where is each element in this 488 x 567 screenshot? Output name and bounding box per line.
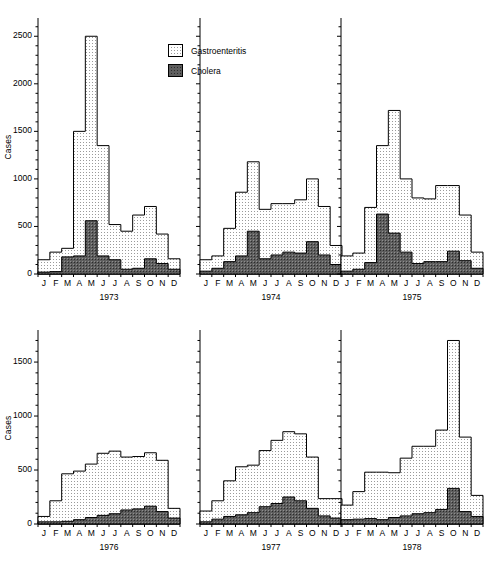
x-axis-month-labels: JFMAMJJASOND — [38, 278, 180, 288]
x-tick-label: M — [247, 278, 259, 288]
x-tick-label: A — [424, 278, 436, 288]
y-axis-title: Cases — [3, 127, 13, 167]
x-tick-label: J — [412, 278, 424, 288]
x-tick-label: J — [97, 278, 109, 288]
x-tick-label: J — [259, 278, 271, 288]
x-tick-label: A — [73, 528, 85, 538]
x-tick-label: J — [341, 528, 353, 538]
x-tick-label: N — [459, 528, 471, 538]
x-tick-label: M — [388, 278, 400, 288]
panel-year-label-1973: 1973 — [38, 292, 180, 302]
x-tick-label: J — [412, 528, 424, 538]
y-tick-label: 2000 — [4, 78, 32, 88]
panel-year-label-1975: 1975 — [341, 292, 483, 302]
series-gastroenteritis-1978 — [341, 340, 483, 524]
x-tick-label: J — [200, 528, 212, 538]
chart-row-top: 05001000150020002500CasesJFMAMJJASOND197… — [0, 0, 450, 310]
x-tick-label: M — [85, 278, 97, 288]
chart-row-bottom: 050010001500CasesJFMAMJJASOND1976 JFMAMJ… — [0, 318, 450, 567]
x-tick-label: S — [436, 528, 448, 538]
x-tick-label: F — [353, 528, 365, 538]
x-tick-label: O — [144, 278, 156, 288]
x-tick-label: M — [388, 528, 400, 538]
x-tick-label: A — [235, 528, 247, 538]
x-tick-label: M — [224, 278, 236, 288]
y-axis-title: Cases — [3, 408, 13, 448]
x-tick-label: A — [283, 528, 295, 538]
x-tick-label: J — [38, 278, 50, 288]
panel-plot-1976 — [4, 318, 192, 534]
x-tick-label: J — [400, 278, 412, 288]
x-tick-label: J — [38, 528, 50, 538]
series-gastroenteritis-1973 — [38, 36, 180, 274]
x-tick-label: F — [50, 278, 62, 288]
x-tick-label: J — [271, 528, 283, 538]
x-tick-label: A — [376, 278, 388, 288]
x-tick-label: J — [271, 278, 283, 288]
x-tick-label: A — [376, 528, 388, 538]
x-tick-label: J — [109, 278, 121, 288]
x-tick-label: M — [62, 278, 74, 288]
x-tick-label: A — [283, 278, 295, 288]
x-tick-label: J — [97, 528, 109, 538]
x-tick-label: J — [109, 528, 121, 538]
x-tick-label: A — [121, 278, 133, 288]
y-tick-label: 1500 — [4, 356, 32, 366]
panel-plot-1975 — [307, 0, 488, 284]
x-tick-label: F — [212, 278, 224, 288]
x-tick-label: O — [144, 528, 156, 538]
y-tick-label: 2500 — [4, 30, 32, 40]
panel-1978: JFMAMJJASOND1978 — [307, 318, 488, 564]
series-gastroenteritis-1975 — [341, 110, 483, 274]
x-tick-label: J — [259, 528, 271, 538]
x-tick-label: F — [50, 528, 62, 538]
x-tick-label: A — [121, 528, 133, 538]
x-tick-label: M — [85, 528, 97, 538]
x-tick-label: S — [133, 528, 145, 538]
x-tick-label: J — [341, 278, 353, 288]
y-tick-label: 0 — [4, 268, 32, 278]
x-tick-label: F — [212, 528, 224, 538]
x-tick-label: J — [200, 278, 212, 288]
x-tick-label: S — [295, 278, 307, 288]
y-tick-label: 500 — [4, 464, 32, 474]
x-tick-label: A — [424, 528, 436, 538]
x-tick-label: A — [235, 278, 247, 288]
panel-plot-1978 — [307, 318, 488, 534]
x-axis-month-labels: JFMAMJJASOND — [341, 278, 483, 288]
x-tick-label: F — [353, 278, 365, 288]
panel-year-label-1978: 1978 — [341, 542, 483, 552]
x-tick-label: A — [73, 278, 85, 288]
panel-1975: JFMAMJJASOND1975 — [307, 0, 488, 314]
x-tick-label: N — [459, 278, 471, 288]
x-axis-month-labels: JFMAMJJASOND — [341, 528, 483, 538]
x-tick-label: M — [247, 528, 259, 538]
x-tick-label: M — [365, 278, 377, 288]
x-tick-label: S — [133, 278, 145, 288]
x-tick-label: M — [224, 528, 236, 538]
panel-1976: 050010001500CasesJFMAMJJASOND1976 — [4, 318, 186, 564]
panel-1973: 05001000150020002500CasesJFMAMJJASOND197… — [4, 0, 186, 314]
x-tick-label: O — [447, 528, 459, 538]
y-tick-label: 0 — [4, 518, 32, 528]
x-tick-label: D — [471, 528, 483, 538]
x-tick-label: S — [436, 278, 448, 288]
x-axis-month-labels: JFMAMJJASOND — [38, 528, 180, 538]
panel-plot-1973 — [4, 0, 192, 284]
y-tick-label: 1000 — [4, 173, 32, 183]
panel-year-label-1976: 1976 — [38, 542, 180, 552]
x-tick-label: D — [471, 278, 483, 288]
y-tick-label: 500 — [4, 220, 32, 230]
x-tick-label: M — [62, 528, 74, 538]
x-tick-label: J — [400, 528, 412, 538]
x-tick-label: M — [365, 528, 377, 538]
x-tick-label: O — [447, 278, 459, 288]
x-tick-label: S — [295, 528, 307, 538]
